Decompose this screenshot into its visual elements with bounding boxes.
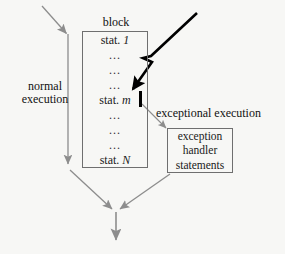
list-item: stat. 1 xyxy=(101,33,130,48)
exception-handler-text: exception handler statements xyxy=(167,128,233,173)
handler-line-2: handler xyxy=(183,143,217,158)
statement-index: N xyxy=(122,153,130,167)
handler-line-3: statements xyxy=(176,158,225,173)
normal-execution-label: normal execution xyxy=(14,80,76,106)
list-item: ... xyxy=(109,138,121,153)
normal-execution-line-2: execution xyxy=(14,93,76,106)
list-item: ... xyxy=(109,108,121,123)
statement-prefix: stat. xyxy=(99,93,122,107)
statement-index: m xyxy=(122,93,131,107)
list-item: ... xyxy=(109,63,121,78)
normal-merge-arrow-icon xyxy=(70,170,112,209)
statement-prefix: stat. xyxy=(100,153,123,167)
block-statement-list: stat. 1 ... ... ... stat. m ... ... ... … xyxy=(82,31,148,168)
list-item-stat-n: stat. N xyxy=(100,153,131,168)
normal-execution-line-1: normal xyxy=(14,80,76,93)
list-item: ... xyxy=(109,48,121,63)
exceptional-execution-label: exceptional execution xyxy=(156,107,261,120)
handler-line-1: exception xyxy=(178,129,223,144)
entry-arrow-icon xyxy=(42,6,67,34)
list-item: ... xyxy=(109,78,121,93)
list-item-stat-m: stat. m xyxy=(99,93,130,108)
statement-prefix: stat. xyxy=(101,33,124,47)
merge-arrow-icon xyxy=(120,174,170,209)
exception-flow-diagram: block stat. 1 ... ... ... stat. m ... ..… xyxy=(0,0,285,254)
list-item: ... xyxy=(109,123,121,138)
statement-index: 1 xyxy=(123,33,129,47)
block-title-label: block xyxy=(86,16,146,29)
